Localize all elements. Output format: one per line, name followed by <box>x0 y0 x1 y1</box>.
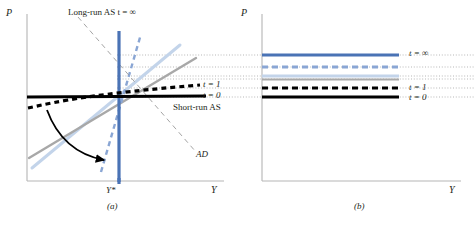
panel-b-x-axis-label: Y <box>449 185 455 195</box>
short-run-as-t0 <box>27 96 206 97</box>
short-run-as-label: Short-run AS <box>173 103 221 112</box>
panel-b-label-t1: t = 1 <box>409 83 427 92</box>
as-ad-figure: P Y Long-run AS t = ∞ Y* AD t = 1 t = 0 … <box>0 0 474 226</box>
long-run-as-title: Long-run AS t = ∞ <box>68 8 136 17</box>
as-curve-gray <box>29 58 196 158</box>
panel-b-y-axis-label: P <box>241 8 247 18</box>
panel-a-label-t0: t = 0 <box>203 91 221 100</box>
panel-a-y-axis-label: P <box>6 8 12 18</box>
panel-b-label-t-infinity: t = ∞ <box>409 49 429 58</box>
panel-b-caption: (b) <box>354 202 365 211</box>
panel-a-equilibrium-label: Y* <box>106 186 116 195</box>
panel-b-label-t0: t = 0 <box>409 93 427 102</box>
as-curve-light-blue <box>32 45 180 168</box>
figure-canvas <box>0 0 474 226</box>
panel-a-caption: (a) <box>107 202 118 211</box>
ad-curve-label: AD <box>196 150 208 159</box>
ad-curve <box>78 17 196 152</box>
panel-a-x-axis-label: Y <box>211 185 217 195</box>
panel-a-label-t1: t = 1 <box>203 80 221 89</box>
